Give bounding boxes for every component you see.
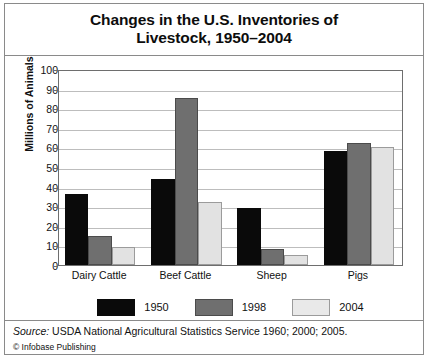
bar-pigs-2004 [371, 147, 395, 265]
bar-dairy-cattle-1950 [65, 194, 89, 265]
source-label: Source: [13, 325, 49, 337]
gridline [59, 91, 402, 92]
chart-figure: Changes in the U.S. Inventories of Lives… [0, 0, 430, 359]
legend-label-2004: 2004 [339, 301, 363, 313]
gridline [59, 110, 402, 111]
bar-pigs-1950 [324, 151, 348, 265]
bar-beef-cattle-1950 [151, 179, 175, 265]
footer-divider [4, 320, 424, 321]
plot-area [58, 70, 403, 266]
x-tick-label-dairy-cattle: Dairy Cattle [72, 269, 127, 281]
x-tick-label-beef-cattle: Beef Cattle [159, 269, 211, 281]
chart-title-line-1: Changes in the U.S. Inventories of [90, 11, 338, 29]
chart-title-line-2: Livestock, 1950–2004 [90, 29, 338, 47]
title-band: Changes in the U.S. Inventories of Lives… [4, 3, 424, 56]
bar-sheep-1950 [237, 208, 261, 265]
chart-title: Changes in the U.S. Inventories of Lives… [72, 11, 356, 48]
legend-item-2004: 2004 [292, 299, 363, 316]
source-note: Source: USDA National Agricultural Stati… [13, 325, 347, 337]
legend-item-1950: 1950 [97, 299, 168, 316]
chart-legend: 195019982004 [58, 296, 403, 318]
legend-swatch-2004 [292, 299, 330, 316]
bar-dairy-cattle-2004 [112, 247, 136, 265]
source-text: USDA National Agricultural Statistics Se… [49, 325, 347, 337]
x-tick-label-pigs: Pigs [348, 269, 368, 281]
bar-dairy-cattle-1998 [88, 236, 112, 265]
legend-swatch-1998 [195, 299, 233, 316]
x-tick-label-sheep: Sheep [256, 269, 286, 281]
gridline [59, 130, 402, 131]
bar-sheep-2004 [284, 255, 308, 265]
legend-swatch-1950 [97, 299, 135, 316]
bar-beef-cattle-2004 [198, 202, 222, 265]
bar-pigs-1998 [347, 143, 371, 265]
legend-label-1998: 1998 [242, 301, 266, 313]
y-tick-mark [54, 266, 58, 267]
copyright-note: © Infobase Publishing [13, 342, 96, 352]
bar-beef-cattle-1998 [175, 98, 199, 265]
legend-label-1950: 1950 [144, 301, 168, 313]
y-axis-ticks: 0102030405060708090100 [24, 70, 58, 266]
legend-item-1998: 1998 [195, 299, 266, 316]
bar-sheep-1998 [261, 249, 285, 265]
